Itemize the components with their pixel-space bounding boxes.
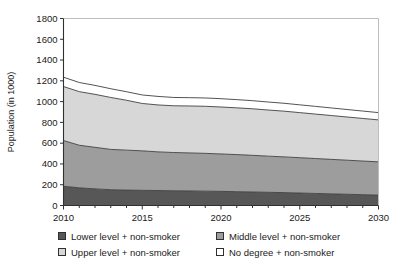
legend-label-middle-level: Middle level + non-smoker [229, 231, 340, 242]
svg-text:400: 400 [42, 158, 58, 169]
legend-item-lower-level[interactable]: Lower level + non-smoker [58, 231, 210, 242]
y-axis-title: Population (in 1000) [6, 72, 16, 153]
svg-text:0: 0 [52, 200, 57, 211]
svg-text:2020: 2020 [210, 212, 231, 223]
svg-text:1600: 1600 [36, 34, 57, 45]
svg-text:200: 200 [42, 179, 58, 190]
legend-item-middle-level[interactable]: Middle level + non-smoker [216, 231, 388, 242]
svg-text:800: 800 [42, 117, 58, 128]
svg-text:1000: 1000 [36, 96, 57, 107]
legend-swatch-lower-level [58, 232, 66, 240]
y-axis-tick-labels: 020040060080010001200140016001800 [36, 13, 57, 211]
legend-swatch-middle-level [216, 232, 224, 240]
legend-label-no-degree: No degree + non-smoker [229, 247, 334, 258]
legend-item-no-degree[interactable]: No degree + non-smoker [216, 247, 388, 258]
svg-text:1200: 1200 [36, 75, 57, 86]
svg-text:1400: 1400 [36, 54, 57, 65]
svg-text:1800: 1800 [36, 13, 57, 24]
x-axis-tick-labels: 20102015202020252030 [53, 212, 389, 223]
svg-text:2015: 2015 [132, 212, 153, 223]
legend-item-upper-level[interactable]: Upper level + non-smoker [58, 247, 210, 258]
chart-figure: 020040060080010001200140016001800 201020… [0, 0, 404, 273]
chart-legend: Lower level + non-smoker Middle level + … [58, 228, 388, 260]
svg-text:2025: 2025 [289, 212, 310, 223]
legend-swatch-no-degree [216, 248, 224, 256]
svg-text:2030: 2030 [368, 212, 389, 223]
plot-area-series-group [64, 77, 379, 205]
legend-swatch-upper-level [58, 248, 66, 256]
svg-text:2010: 2010 [53, 212, 74, 223]
legend-label-upper-level: Upper level + non-smoker [71, 247, 180, 258]
svg-text:600: 600 [42, 137, 58, 148]
legend-label-lower-level: Lower level + non-smoker [71, 231, 180, 242]
